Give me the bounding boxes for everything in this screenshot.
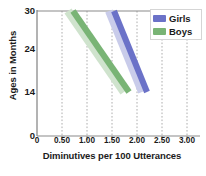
legend-swatch-icon <box>153 15 166 22</box>
legend-swatch-icon <box>153 28 166 35</box>
x-tick-label: 1.00 <box>74 136 100 145</box>
legend-label: Boys <box>169 27 192 37</box>
x-tick-label: 2.50 <box>149 136 175 145</box>
x-tick-label: 1.50 <box>99 136 125 145</box>
x-tick-label: 2.00 <box>124 136 150 145</box>
legend-item-girls: Girls <box>153 12 201 25</box>
legend-label: Girls <box>169 14 191 24</box>
x-axis-title: Diminutives per 100 Utterances <box>18 150 206 161</box>
chart-container: Ages in Months 30 24 14 0 <box>0 0 206 176</box>
x-tick-label: 3.00 <box>174 136 200 145</box>
x-tick-label: 0 <box>30 136 44 145</box>
x-tick-label: 0.50 <box>49 136 75 145</box>
legend-item-boys: Boys <box>153 25 201 38</box>
chart-legend: Girls Boys <box>150 9 202 40</box>
